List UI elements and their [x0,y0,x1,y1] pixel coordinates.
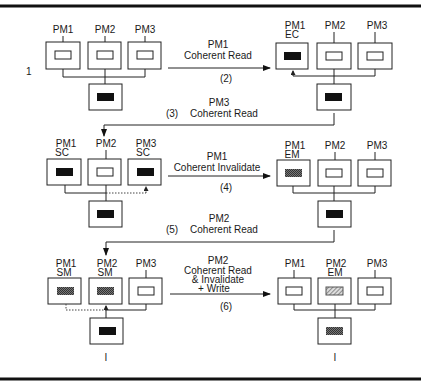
transition-5: PM2 (5) Coherent Read [106,213,334,255]
svg-text:(3): (3) [166,108,178,119]
svg-text:SM: SM [98,267,113,278]
pm3-cache [137,51,153,59]
state-6: PM1 PM2 EM PM3 I [278,258,391,363]
svg-text:PM3: PM3 [209,97,230,108]
svg-text:Coherent Read: Coherent Read [184,50,252,61]
svg-text:EC: EC [285,29,299,40]
svg-text:Coherent Read: Coherent Read [190,224,258,235]
svg-text:PM1: PM1 [207,151,228,162]
transition-3: PM3 (3) Coherent Read [104,97,334,136]
coherence-diagram: 1 PM1 PM2 PM3 PM1 Coherent Read (2) PM1 … [0,0,421,386]
svg-text:PM2: PM2 [96,138,117,149]
svg-text:Coherent Invalidate: Coherent Invalidate [174,162,261,173]
svg-text:SM: SM [57,267,72,278]
svg-text:PM2: PM2 [209,213,230,224]
svg-text:PM3: PM3 [367,140,388,151]
state-1: PM1 PM2 PM3 [46,24,161,110]
state-3: PM1 SC PM2 PM3 SC [47,138,161,227]
svg-text:I: I [105,352,108,363]
svg-text:SC: SC [136,147,150,158]
svg-text:(5): (5) [166,224,178,235]
transition-4: PM1 Coherent Invalidate (4) [168,151,270,193]
pm2-label: PM2 [95,24,116,35]
pm1-label: PM1 [53,24,74,35]
memory-block [97,93,114,101]
pm3-label: PM3 [135,24,156,35]
svg-text:+ Write: + Write [198,283,230,294]
svg-text:PM1: PM1 [285,258,306,269]
svg-text:PM2: PM2 [325,140,346,151]
pm2-cache [97,51,113,59]
svg-text:(2): (2) [220,73,232,84]
pm1-cache [55,51,71,59]
transition-6: PM2 Coherent Read & Invalidate + Write (… [170,255,270,312]
state-2: PM1 EC PM2 PM3 [276,20,392,110]
svg-text:SC: SC [55,147,69,158]
row-label: 1 [26,66,32,77]
svg-text:PM2: PM2 [325,20,346,31]
svg-text:PM3: PM3 [136,258,157,269]
svg-text:(6): (6) [220,301,232,312]
svg-text:I: I [334,352,337,363]
svg-text:PM3: PM3 [367,258,388,269]
svg-text:EM: EM [285,149,300,160]
svg-text:PM3: PM3 [367,20,388,31]
state-4: PM1 EM PM2 PM3 [277,140,391,227]
svg-text:Coherent Read: Coherent Read [190,108,258,119]
state-5: PM1 SM PM2 SM PM3 I [48,258,162,363]
svg-text:(4): (4) [220,182,232,193]
transition-2: PM1 Coherent Read (2) [168,39,270,84]
svg-text:PM1: PM1 [208,39,229,50]
svg-text:EM: EM [328,267,343,278]
